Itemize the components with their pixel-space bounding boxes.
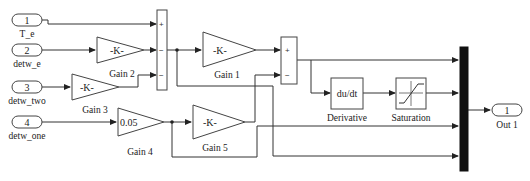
- svg-text:4: 4: [25, 117, 30, 128]
- svg-text:−: −: [159, 71, 164, 80]
- simulink-canvas: 1 T_e 2 detw_e 3 detw_two 4 detw_one -K-…: [0, 0, 530, 181]
- svg-text:-K-: -K-: [80, 82, 94, 93]
- svg-text:2: 2: [25, 45, 30, 56]
- inport-4[interactable]: 4 detw_one: [9, 116, 46, 141]
- inport-1-label: T_e: [20, 29, 35, 39]
- gain-2-block[interactable]: -K- Gain 2: [97, 37, 144, 79]
- svg-text:0.05: 0.05: [120, 117, 138, 128]
- svg-text:-K-: -K-: [110, 45, 124, 56]
- gain-2-label: Gain 2: [109, 69, 135, 79]
- gain-1-label: Gain 1: [214, 70, 240, 80]
- mux-block[interactable]: [460, 47, 468, 171]
- svg-text:1: 1: [505, 105, 510, 116]
- derivative-label: Derivative: [327, 113, 367, 123]
- svg-text:du/dt: du/dt: [337, 88, 358, 99]
- saturation-block[interactable]: Saturation: [391, 78, 430, 123]
- inport-4-label: detw_one: [9, 131, 46, 141]
- svg-text:+: +: [159, 20, 164, 29]
- gain-3-block[interactable]: -K- Gain 3: [72, 74, 119, 115]
- inport-3[interactable]: 3 detw_two: [8, 81, 46, 106]
- gain-4-label: Gain 4: [127, 147, 153, 157]
- gain-5-label: Gain 5: [202, 143, 228, 153]
- inport-2[interactable]: 2 detw_e: [12, 44, 42, 69]
- svg-text:−: −: [159, 46, 164, 55]
- gain-1-block[interactable]: -K- Gain 1: [203, 32, 256, 80]
- svg-text:1: 1: [25, 15, 30, 26]
- gain-5-block[interactable]: -K- Gain 5: [193, 105, 245, 153]
- outport-1-label: Out 1: [496, 120, 518, 130]
- outport-1[interactable]: 1 Out 1: [492, 104, 522, 130]
- saturation-label: Saturation: [391, 113, 430, 123]
- svg-text:-K-: -K-: [213, 45, 227, 56]
- gain-3-label: Gain 3: [82, 105, 108, 115]
- svg-text:-K-: -K-: [203, 117, 217, 128]
- svg-text:+: +: [285, 46, 290, 55]
- inport-1[interactable]: 1 T_e: [12, 14, 42, 39]
- sum-1-block[interactable]: + − −: [157, 10, 167, 90]
- sum-2-block[interactable]: + −: [281, 37, 297, 84]
- derivative-block[interactable]: du/dt Derivative: [327, 78, 367, 123]
- svg-text:−: −: [285, 71, 290, 80]
- gain-4-block[interactable]: 0.05 Gain 4: [118, 108, 164, 157]
- svg-text:3: 3: [25, 82, 30, 93]
- inport-2-label: detw_e: [13, 59, 40, 69]
- inport-3-label: detw_two: [8, 96, 46, 106]
